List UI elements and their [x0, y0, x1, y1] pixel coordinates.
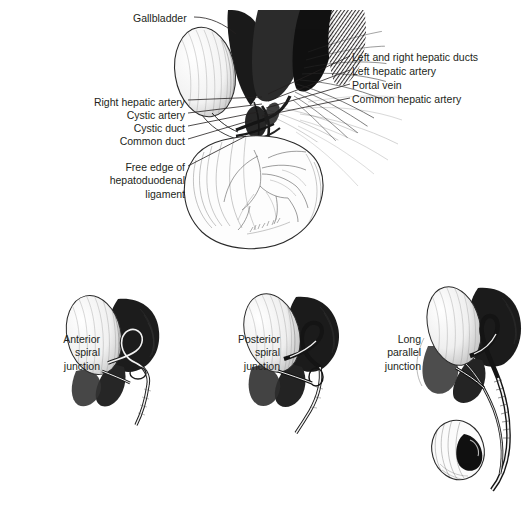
posterior-line-3: junction	[244, 360, 280, 372]
label-right-hepatic-artery: Right hepatic artery	[55, 96, 185, 109]
label-free-edge-hepatoduodenal-ligament: Free edge ofhepatoduodenalligament	[55, 161, 185, 201]
label-common-duct: Common duct	[55, 135, 185, 148]
free-edge-line-3: ligament	[145, 188, 185, 200]
label-left-hepatic-artery: Left hepatic artery	[352, 65, 528, 78]
label-anterior-spiral-junction: Anteriorspiraljunction	[0, 333, 100, 373]
label-cystic-artery: Cystic artery	[55, 109, 185, 122]
posterior-line-2: spiral	[255, 346, 280, 358]
label-portal-vein: Portal vein	[352, 79, 528, 92]
anterior-line-1: Anterior	[63, 333, 100, 345]
anterior-line-3: junction	[64, 360, 100, 372]
free-edge-line-2: hepatoduodenal	[110, 174, 185, 186]
label-cystic-duct: Cystic duct	[55, 122, 185, 135]
long-line-2: parallel	[387, 346, 421, 358]
label-long-parallel-junction: Longparalleljunction	[341, 333, 421, 373]
label-gallbladder: Gallbladder	[133, 12, 195, 25]
label-common-hepatic-artery: Common hepatic artery	[352, 93, 528, 106]
long-line-1: Long	[398, 333, 421, 345]
free-edge-line-1: Free edge of	[125, 161, 185, 173]
anterior-line-2: spiral	[75, 346, 100, 358]
label-left-and-right-hepatic-ducts: Left and right hepatic ducts	[352, 51, 528, 64]
posterior-line-1: Posterior	[238, 333, 280, 345]
long-parallel-junction-illustration	[412, 278, 531, 496]
label-posterior-spiral-junction: Posteriorspiraljunction	[180, 333, 280, 373]
long-line-3: junction	[385, 360, 421, 372]
duodenum-segment-c	[425, 414, 492, 486]
